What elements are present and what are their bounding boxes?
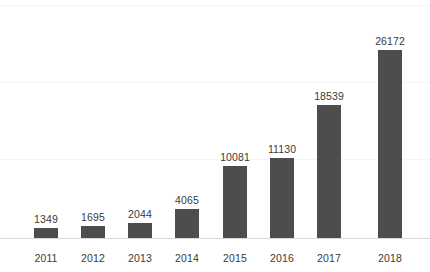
bar-chart: 1349 2011 1695 2012 2044 2013 4065 2014 …	[0, 0, 430, 272]
plot-area: 1349 2011 1695 2012 2044 2013 4065 2014 …	[0, 0, 430, 272]
bar-2016[interactable]	[270, 158, 294, 238]
x-tick-label-2015: 2015	[223, 252, 247, 264]
bar-value-label: 18539	[314, 90, 344, 102]
bar-value-label: 4065	[175, 194, 199, 206]
bar-2018[interactable]	[378, 50, 402, 238]
x-tick-label-2014: 2014	[175, 252, 199, 264]
bar-2017[interactable]	[317, 105, 341, 238]
bar-value-label: 10081	[220, 151, 250, 163]
x-tick-label-2017: 2017	[317, 252, 341, 264]
bar-value-label: 11130	[268, 143, 296, 155]
bar-value-label: 26172	[375, 35, 405, 47]
bar-2011[interactable]	[34, 228, 58, 238]
x-tick-label-2011: 2011	[35, 252, 58, 264]
bar-2015[interactable]	[223, 166, 247, 238]
bar-2014[interactable]	[175, 209, 199, 238]
x-tick-label-2012: 2012	[81, 252, 105, 264]
bar-value-label: 2044	[128, 208, 152, 220]
x-tick-label-2013: 2013	[128, 252, 152, 264]
x-tick-label-2018: 2018	[378, 252, 402, 264]
bar-2012[interactable]	[81, 226, 105, 238]
x-tick-label-2016: 2016	[270, 252, 294, 264]
bar-value-label: 1695	[81, 211, 105, 223]
bar-value-label: 1349	[34, 213, 58, 225]
bar-2013[interactable]	[128, 223, 152, 238]
